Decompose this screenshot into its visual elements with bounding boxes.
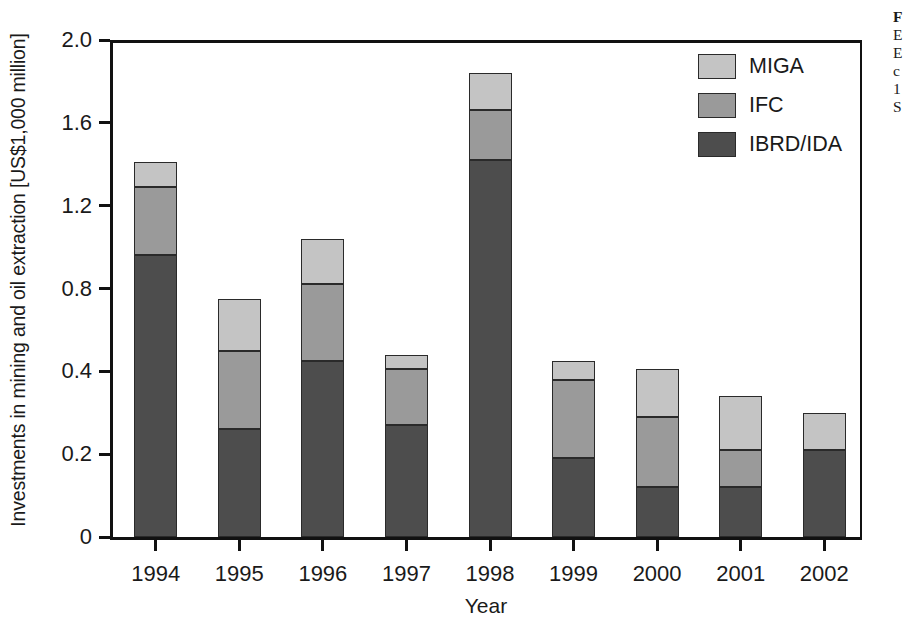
x-axis-tick: 2001 bbox=[739, 540, 742, 551]
legend-label: IFC bbox=[749, 93, 784, 118]
bar-segment-ifc bbox=[636, 417, 679, 487]
bar-2001 bbox=[719, 396, 762, 537]
bar-1999 bbox=[552, 361, 595, 537]
y-axis-tick: 1.6 bbox=[99, 121, 110, 124]
bar-segment-miga bbox=[134, 162, 177, 187]
side-caption-line: F bbox=[893, 8, 923, 26]
bar-segment-ifc bbox=[719, 450, 762, 487]
legend-label: MIGA bbox=[749, 54, 804, 79]
bar-1995 bbox=[218, 299, 261, 537]
x-axis-tick: 1996 bbox=[321, 540, 324, 551]
x-axis-tick: 1998 bbox=[489, 540, 492, 551]
x-axis-tick-label: 1999 bbox=[549, 561, 598, 587]
bar-segment-ibrd-ida bbox=[636, 487, 679, 537]
x-axis-tick-label: 1998 bbox=[466, 561, 515, 587]
legend-swatch-icon bbox=[698, 132, 736, 157]
side-caption-line: E bbox=[893, 44, 923, 62]
legend-label: IBRD/IDA bbox=[749, 132, 842, 157]
side-caption-line: c bbox=[893, 62, 923, 80]
axis-spine-right bbox=[860, 40, 862, 540]
bar-segment-miga bbox=[301, 239, 344, 285]
side-caption-clipped: FEEc1S bbox=[893, 8, 923, 116]
bar-segment-ibrd-ida bbox=[301, 361, 344, 537]
bar-segment-ifc bbox=[134, 187, 177, 255]
bar-segment-miga bbox=[469, 73, 512, 110]
axis-spine-left bbox=[110, 40, 113, 540]
side-caption-line: E bbox=[893, 26, 923, 44]
x-axis-tick-label: 1994 bbox=[131, 561, 180, 587]
bar-segment-miga bbox=[385, 355, 428, 369]
axis-spine-top bbox=[110, 40, 862, 43]
x-axis-tick: 2002 bbox=[823, 540, 826, 551]
y-axis-tick: 1.2 bbox=[99, 204, 110, 207]
figure-container: Investments in mining and oil extraction… bbox=[0, 0, 923, 633]
axis-spine-bottom bbox=[110, 537, 862, 540]
bar-1998 bbox=[469, 73, 512, 537]
y-axis-tick-label: 1.6 bbox=[61, 110, 92, 136]
bar-segment-miga bbox=[636, 369, 679, 417]
x-axis-tick-label: 2001 bbox=[716, 561, 765, 587]
y-axis-title: Investments in mining and oil extraction… bbox=[0, 0, 36, 560]
x-axis-tick: 2000 bbox=[656, 540, 659, 551]
x-axis-tick-label: 1997 bbox=[382, 561, 431, 587]
bar-segment-miga bbox=[218, 299, 261, 351]
bar-segment-ifc bbox=[385, 369, 428, 425]
bar-segment-ibrd-ida bbox=[719, 487, 762, 537]
x-axis-tick: 1997 bbox=[405, 540, 408, 551]
legend-item-miga: MIGA bbox=[698, 54, 842, 79]
y-axis-tick-label: 2.0 bbox=[61, 27, 92, 53]
bar-segment-ibrd-ida bbox=[552, 458, 595, 537]
chart-legend: MIGAIFCIBRD/IDA bbox=[698, 54, 842, 157]
x-axis-tick-label: 1995 bbox=[215, 561, 264, 587]
bar-2002 bbox=[803, 413, 846, 537]
y-axis-tick: 2.0 bbox=[99, 39, 110, 42]
bar-segment-ifc bbox=[218, 351, 261, 430]
bar-segment-ibrd-ida bbox=[803, 450, 846, 537]
legend-item-ifc: IFC bbox=[698, 93, 842, 118]
y-axis-tick: 0.8 bbox=[99, 287, 110, 290]
x-axis-title: Year bbox=[110, 594, 862, 618]
x-axis-tick: 1994 bbox=[154, 540, 157, 551]
x-axis-tick-label: 2002 bbox=[800, 561, 849, 587]
y-axis-tick-label: 0.4 bbox=[61, 358, 92, 384]
y-axis-tick-label: 0.8 bbox=[61, 276, 92, 302]
bar-segment-miga bbox=[719, 396, 762, 450]
y-axis-tick-label: 0.2 bbox=[61, 441, 92, 467]
bar-1996 bbox=[301, 239, 344, 537]
bar-1997 bbox=[385, 355, 428, 537]
y-axis-tick: 0.2 bbox=[99, 453, 110, 456]
y-axis-tick-label: 1.2 bbox=[61, 193, 92, 219]
bar-2000 bbox=[636, 369, 679, 537]
legend-swatch-icon bbox=[698, 93, 736, 118]
bar-segment-miga bbox=[552, 361, 595, 380]
side-caption-line: S bbox=[893, 98, 923, 116]
bar-segment-ifc bbox=[301, 284, 344, 361]
bar-segment-ifc bbox=[552, 380, 595, 459]
legend-swatch-icon bbox=[698, 54, 736, 79]
y-axis-tick: 0 bbox=[99, 536, 110, 539]
bar-segment-ibrd-ida bbox=[134, 255, 177, 537]
x-axis-tick-label: 2000 bbox=[633, 561, 682, 587]
x-axis-tick: 1999 bbox=[572, 540, 575, 551]
bar-segment-ibrd-ida bbox=[469, 160, 512, 537]
y-axis-tick: 0.4 bbox=[99, 370, 110, 373]
side-caption-line: 1 bbox=[893, 80, 923, 98]
bar-segment-ifc bbox=[469, 110, 512, 160]
legend-item-ibrd-ida: IBRD/IDA bbox=[698, 132, 842, 157]
x-axis-tick-label: 1996 bbox=[298, 561, 347, 587]
x-axis-tick: 1995 bbox=[238, 540, 241, 551]
bar-segment-ibrd-ida bbox=[385, 425, 428, 537]
bar-1994 bbox=[134, 162, 177, 537]
bar-segment-ibrd-ida bbox=[218, 429, 261, 537]
bar-segment-miga bbox=[803, 413, 846, 450]
y-axis-tick-label: 0 bbox=[80, 524, 92, 550]
